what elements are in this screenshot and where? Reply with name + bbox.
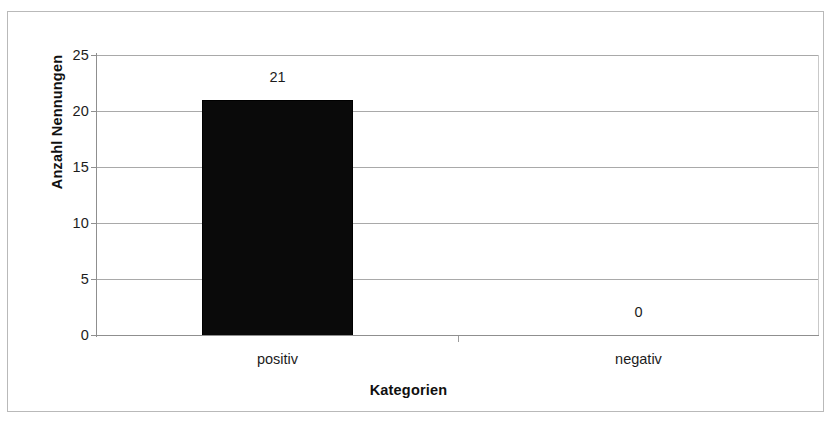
- y-axis-tick-label-5: 5: [49, 272, 89, 287]
- category-label-negativ: negativ: [559, 352, 719, 367]
- category-axis-title: Kategorien: [8, 383, 825, 398]
- data-label-negativ: 0: [579, 305, 699, 320]
- y-axis-tick-20: [91, 111, 97, 112]
- value-axis-title: Anzahl Nennungen: [50, 22, 70, 222]
- value-axis-line: [96, 53, 97, 337]
- gridline-25: [97, 55, 819, 56]
- category-axis-title-text: Kategorien: [370, 382, 448, 398]
- y-axis-tick-15: [91, 167, 97, 168]
- category-axis-mid-tick: [458, 336, 459, 342]
- y-axis-tick-25: [91, 55, 97, 56]
- y-axis-tick-10: [91, 223, 97, 224]
- chart-frame: 25 20 15 10 5 0 21 0 positiv negativ Anz…: [7, 11, 824, 412]
- y-axis-tick-5: [91, 279, 97, 280]
- plot-right-edge: [818, 55, 819, 335]
- category-label-positiv: positiv: [198, 352, 358, 367]
- data-label-positiv: 21: [218, 70, 338, 85]
- y-axis-tick-label-0: 0: [49, 328, 89, 343]
- bar-positiv: [202, 100, 353, 336]
